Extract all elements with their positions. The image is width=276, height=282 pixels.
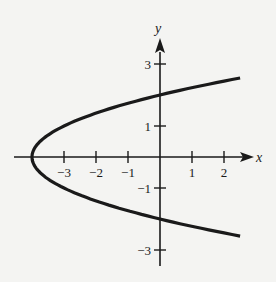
y-axis-arrow-icon — [155, 38, 165, 53]
y-axis-label: y — [153, 21, 162, 36]
y-tick-label: 3 — [145, 57, 152, 72]
y-tick-label: −1 — [137, 181, 151, 196]
parabola-chart: x y −3−2−112 31−1−3 — [0, 0, 276, 282]
x-axis-label: x — [255, 150, 263, 165]
axes: x y — [14, 21, 263, 266]
x-ticks: −3−2−112 — [57, 151, 227, 180]
x-tick-label: −3 — [57, 165, 71, 180]
y-tick-label: 1 — [145, 119, 152, 134]
x-tick-label: −1 — [121, 165, 135, 180]
x-tick-label: −2 — [89, 165, 103, 180]
x-tick-label: 1 — [189, 165, 196, 180]
x-tick-label: 2 — [221, 165, 228, 180]
y-tick-label: −3 — [137, 243, 151, 258]
